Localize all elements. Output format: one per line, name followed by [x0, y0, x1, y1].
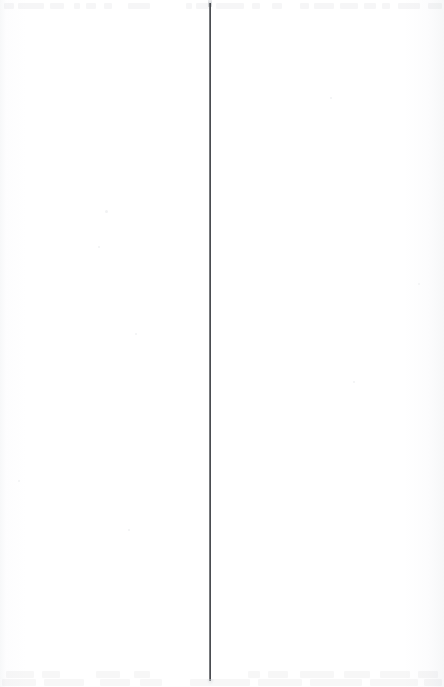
application-window: [0, 0, 444, 687]
right-pane[interactable]: [211, 0, 444, 687]
vertical-divider[interactable]: [209, 3, 211, 681]
left-pane[interactable]: [0, 0, 209, 687]
vertical-divider-bottom-cap: [206, 679, 215, 686]
